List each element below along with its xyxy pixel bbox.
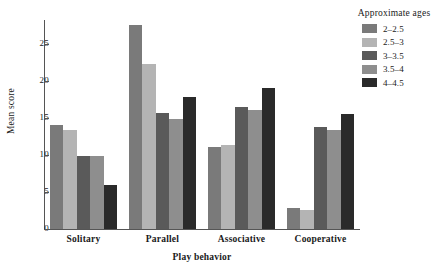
bar-chart: 0510152025 Mean score SolitaryParallelAs… <box>0 0 444 274</box>
bar <box>50 125 64 230</box>
bar <box>63 130 77 229</box>
plot-area <box>44 20 360 229</box>
legend-swatch <box>362 65 377 74</box>
bar <box>104 185 118 229</box>
bar <box>77 156 91 229</box>
y-axis-tick: 25 <box>0 44 49 45</box>
bar <box>221 145 235 229</box>
x-axis-group-label: Associative <box>197 234 287 244</box>
legend-item-label: 3–3.5 <box>383 51 404 61</box>
legend-items: 2–2.52.5–33–3.53.5–44–4.5 <box>346 22 442 89</box>
legend-item[interactable]: 2.5–3 <box>362 36 442 49</box>
bar <box>169 119 183 229</box>
legend-item-label: 3.5–4 <box>383 64 404 74</box>
y-axis-tick: 0 <box>0 229 49 230</box>
legend-item-label: 2–2.5 <box>383 24 404 34</box>
legend-item[interactable]: 2–2.5 <box>362 22 442 35</box>
bar <box>300 210 314 229</box>
y-axis-tick: 5 <box>0 192 49 193</box>
bar <box>248 110 262 229</box>
legend-swatch <box>362 51 377 60</box>
bar <box>208 147 222 229</box>
bar <box>287 208 301 229</box>
bar <box>129 25 143 229</box>
legend-swatch <box>362 38 377 47</box>
bar <box>90 156 104 229</box>
x-axis-title: Play behavior <box>44 252 360 262</box>
bar <box>142 64 156 229</box>
x-axis-group-label: Solitary <box>39 234 129 244</box>
bar <box>235 107 249 229</box>
legend: Approximate ages 2–2.52.5–33–3.53.5–44–4… <box>346 8 442 90</box>
bar <box>262 88 276 229</box>
legend-item-label: 4–4.5 <box>383 78 404 88</box>
x-axis-group-label: Cooperative <box>276 234 366 244</box>
legend-title: Approximate ages <box>346 8 442 18</box>
legend-swatch <box>362 78 377 87</box>
legend-swatch <box>362 24 377 33</box>
legend-item[interactable]: 3.5–4 <box>362 63 442 76</box>
bar <box>327 130 341 229</box>
y-axis-title: Mean score <box>6 76 16 146</box>
bar <box>341 114 355 229</box>
legend-item[interactable]: 3–3.5 <box>362 49 442 62</box>
bar <box>156 113 170 229</box>
y-axis-tick: 10 <box>0 155 49 156</box>
x-axis-group-label: Parallel <box>118 234 208 244</box>
legend-item-label: 2.5–3 <box>383 37 404 47</box>
bar <box>183 97 197 229</box>
x-axis-line <box>44 229 360 230</box>
bar <box>314 127 328 229</box>
legend-item[interactable]: 4–4.5 <box>362 76 442 89</box>
